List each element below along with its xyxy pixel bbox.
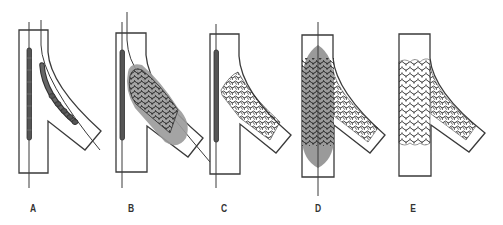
panel-a: [19, 20, 101, 188]
bifurcation-stenting-diagram: [0, 0, 503, 225]
panel-label-d: D: [310, 203, 327, 214]
panel-label-a: A: [25, 203, 42, 214]
panel-d: [302, 22, 385, 196]
panel-label-b: B: [123, 203, 140, 214]
main-stent-undeployed: [120, 50, 125, 140]
panel-c: [210, 24, 291, 188]
panel-label-c: C: [216, 203, 233, 214]
panel-label-e: E: [405, 203, 422, 214]
branch-guidewire: [41, 20, 100, 150]
main-stent-undeployed: [214, 50, 219, 142]
panel-e: [399, 34, 485, 176]
panel-b: [116, 12, 210, 188]
main-stent-final: [399, 59, 430, 145]
branch-stent-deployed: [221, 72, 280, 140]
